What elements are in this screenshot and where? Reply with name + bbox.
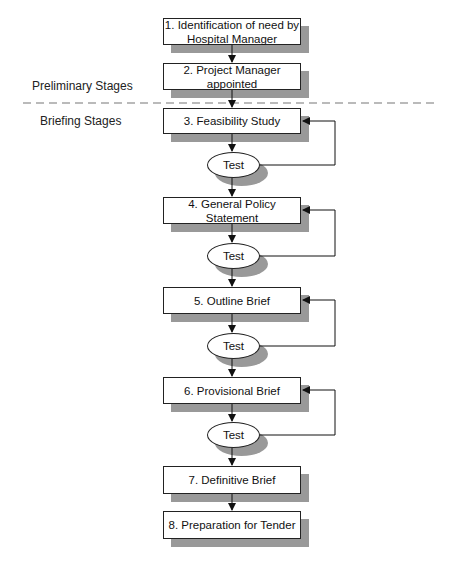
stage-8-box: 8. Preparation for Tender bbox=[163, 511, 301, 539]
stage-5-box: 5. Outline Brief bbox=[163, 287, 301, 314]
test-node-4: Test bbox=[207, 422, 260, 448]
stage-7-label: 7. Definitive Brief bbox=[189, 473, 276, 487]
stage-3-box: 3. Feasibility Study bbox=[163, 108, 301, 134]
stage-1-label-line2: Hospital Manager bbox=[187, 32, 277, 46]
stage-8-label: 8. Preparation for Tender bbox=[168, 518, 295, 532]
stage-2-label-line2: appointed bbox=[207, 77, 258, 91]
stage-5-label: 5. Outline Brief bbox=[194, 294, 270, 308]
stage-4-box: 4. General Policy Statement bbox=[163, 197, 301, 224]
test-3-label: Test bbox=[223, 340, 244, 352]
stage-6-label: 6. Provisional Brief bbox=[184, 384, 280, 398]
stage-4-label: 4. General Policy Statement bbox=[164, 197, 300, 225]
stage-1-label-line1: 1. Identification of need by bbox=[165, 18, 299, 32]
stage-2-box: 2. Project Manager appointed bbox=[163, 63, 301, 90]
test-2-label: Test bbox=[223, 250, 244, 262]
test-node-3: Test bbox=[207, 333, 260, 359]
test-node-1: Test bbox=[207, 152, 260, 178]
stage-2-label-line1: 2. Project Manager bbox=[183, 63, 280, 77]
section-label-briefing: Briefing Stages bbox=[40, 114, 121, 128]
test-4-label: Test bbox=[223, 429, 244, 441]
stage-7-box: 7. Definitive Brief bbox=[163, 466, 301, 494]
test-1-label: Test bbox=[223, 159, 244, 171]
test-node-2: Test bbox=[207, 243, 260, 269]
stage-1-box: 1. Identification of need by Hospital Ma… bbox=[163, 18, 301, 45]
stage-6-box: 6. Provisional Brief bbox=[163, 377, 301, 404]
stage-3-label: 3. Feasibility Study bbox=[184, 114, 281, 128]
section-label-preliminary: Preliminary Stages bbox=[32, 79, 133, 93]
